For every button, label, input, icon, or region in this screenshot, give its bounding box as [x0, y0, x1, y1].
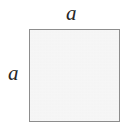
side-label-top: a: [66, 3, 77, 24]
square-shape: [29, 29, 120, 122]
side-label-left: a: [8, 63, 19, 84]
square-fill-texture: [30, 30, 119, 121]
geometry-figure-square: a a: [0, 0, 126, 133]
